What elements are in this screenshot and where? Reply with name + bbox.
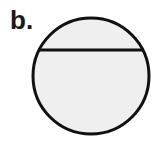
- circle-diagram: [0, 0, 161, 143]
- circle-shape: [33, 18, 149, 134]
